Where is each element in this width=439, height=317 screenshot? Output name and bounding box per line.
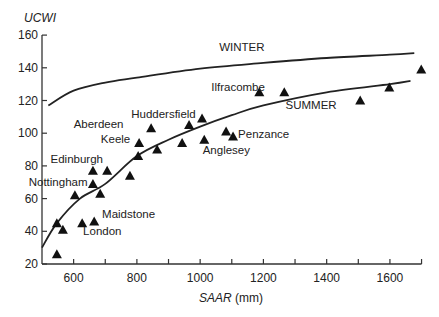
triangle-marker (134, 138, 144, 147)
y-tick-label: 100 (18, 126, 38, 140)
x-tick-label: 600 (64, 271, 84, 285)
site-label: Ilfracombe (211, 81, 265, 93)
site-label: Nottingham (29, 176, 88, 188)
triangle-marker (88, 166, 98, 175)
y-tick-label: 20 (25, 257, 39, 271)
triangle-marker (52, 249, 62, 258)
x-tick-label: 1600 (377, 271, 404, 285)
triangle-marker (197, 113, 207, 122)
y-tick-label: 80 (25, 159, 39, 173)
triangle-marker (355, 96, 365, 105)
site-label: Huddersfield (131, 108, 196, 120)
x-tick-label: 800 (127, 271, 147, 285)
y-tick-label: 60 (25, 192, 39, 206)
triangle-marker (88, 179, 98, 188)
triangle-marker (146, 123, 156, 132)
site-label: Edinburgh (51, 153, 103, 165)
site-label: Anglesey (203, 144, 251, 156)
site-label: London (83, 225, 121, 237)
site-label: Aberdeen (74, 118, 124, 130)
triangle-marker (279, 87, 289, 96)
triangle-marker (70, 190, 80, 199)
triangle-marker (177, 138, 187, 147)
x-tick-label: 1000 (187, 271, 214, 285)
y-tick-label: 120 (18, 94, 38, 108)
curve-label: WINTER (219, 41, 264, 53)
site-label: Maidstone (102, 208, 155, 220)
ucwi-vs-saar-chart: 2040608010012014016060080010001200140016… (0, 0, 439, 317)
y-tick-label: 140 (18, 61, 38, 75)
x-axis-label: SAAR (mm) (199, 291, 263, 305)
curve-label: SUMMER (286, 99, 337, 111)
y-tick-label: 160 (18, 28, 38, 42)
site-label: Penzance (238, 128, 289, 140)
x-tick-label: 1400 (313, 271, 340, 285)
triangle-marker (102, 166, 112, 175)
triangle-marker (199, 135, 209, 144)
triangle-marker (416, 64, 426, 73)
y-tick-label: 40 (25, 224, 39, 238)
site-label: Keele (101, 133, 130, 145)
x-tick-label: 1200 (250, 271, 277, 285)
triangle-marker (125, 171, 135, 180)
triangle-marker (184, 120, 194, 129)
y-axis-label: UCWI (24, 11, 57, 25)
triangle-marker (221, 127, 231, 136)
